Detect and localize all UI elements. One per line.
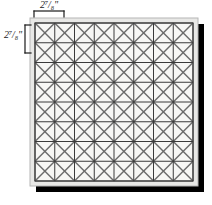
dimension-bracket-top (34, 11, 64, 17)
panel-drawing (0, 0, 212, 205)
tile-lattice (35, 23, 193, 181)
tile-panel-diagram: 2⁷/₈" 2⁷/₈" (0, 0, 212, 205)
